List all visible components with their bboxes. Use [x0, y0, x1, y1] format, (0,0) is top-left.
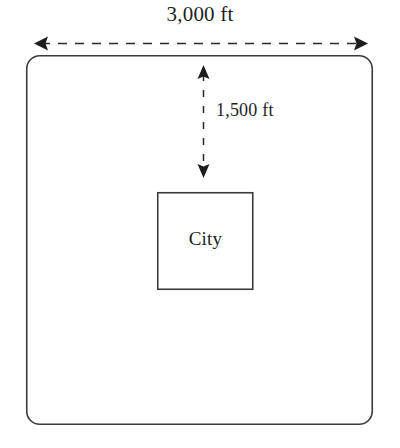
- diagram-canvas: [0, 0, 400, 448]
- width-dimension-arrow-right-icon: [354, 37, 368, 51]
- diagram-root: 3,000 ft 1,500 ft City: [0, 0, 400, 448]
- city-label: City: [157, 229, 254, 248]
- width-dimension-label: 3,000 ft: [0, 4, 400, 25]
- offset-dimension-label: 1,500 ft: [216, 101, 274, 119]
